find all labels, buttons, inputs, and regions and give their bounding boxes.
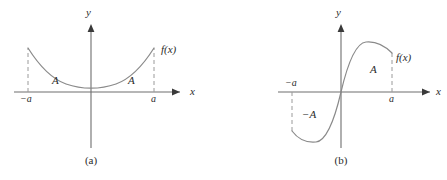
- panel-a-tick-label-minus-a: −a: [20, 94, 32, 104]
- panel-a-caption: (a): [74, 155, 108, 166]
- panel-a-tick-label-a: a: [151, 94, 156, 104]
- figure-even-odd-function-areas: y x f(x) A A −a a (a): [0, 0, 447, 180]
- panel-b-function-label: f(x): [396, 52, 411, 63]
- panel-a: y x f(x) A A −a a (a): [0, 0, 224, 180]
- panel-b-tick-label-a: a: [389, 94, 394, 104]
- panel-a-x-axis-label: x: [190, 86, 195, 97]
- panel-b-y-axis-label: y: [336, 7, 341, 18]
- panel-b-x-axis-label: x: [436, 86, 441, 97]
- panel-b-y-axis: [338, 24, 345, 148]
- panel-b-plot: [224, 0, 447, 180]
- panel-a-area-label-right: A: [128, 75, 135, 86]
- panel-a-function-label: f(x): [161, 44, 176, 55]
- panel-b: y x f(x) A −A −a a (b): [224, 0, 447, 180]
- panel-b-area-label-upper: A: [370, 64, 377, 75]
- panel-a-area-label-left: A: [52, 75, 59, 86]
- panel-a-y-axis-label: y: [86, 7, 91, 18]
- panel-b-tick-label-minus-a: −a: [285, 78, 297, 88]
- panel-b-x-axis: [278, 89, 430, 96]
- panel-b-caption: (b): [324, 155, 358, 166]
- panel-b-area-label-lower: −A: [302, 109, 316, 120]
- panel-a-y-axis: [88, 24, 95, 148]
